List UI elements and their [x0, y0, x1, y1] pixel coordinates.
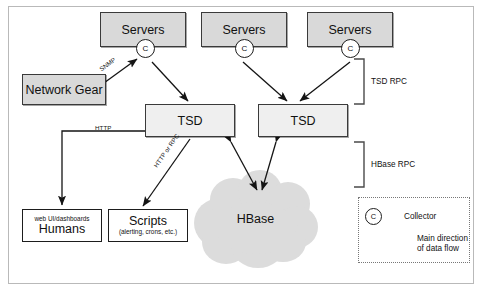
node-tsd-right[interactable]: TSD — [258, 104, 348, 137]
hbase-label: HBase — [188, 168, 323, 270]
legend-collector-glyph: C — [371, 212, 376, 221]
humans-label: Humans — [39, 223, 86, 236]
legend-row-flow: Main direction of data flow — [365, 234, 468, 253]
servers-3-label: Servers — [328, 23, 371, 37]
architecture-diagram: HBase — [0, 0, 485, 293]
bracket-label-tsd-rpc: TSD RPC — [371, 77, 407, 86]
collector-3-icon[interactable]: C — [341, 39, 360, 58]
legend-flow-label-line2: of data flow — [417, 244, 459, 254]
legend-flow-label-line1: Main direction — [417, 234, 468, 244]
tsd-right-label: TSD — [291, 114, 316, 128]
edge-label-http: HTTP — [95, 124, 112, 131]
legend-row-collector: C Collector — [365, 208, 436, 225]
legend-box: C Collector Main direction of data flow — [358, 197, 470, 263]
collector-2-icon[interactable]: C — [235, 39, 254, 58]
network-gear-label: Network Gear — [25, 83, 102, 97]
collector-1-glyph: C — [143, 44, 149, 53]
node-scripts[interactable]: Scripts (alerting, crons, etc.) — [108, 209, 188, 242]
collector-3-glyph: C — [348, 44, 354, 53]
node-tsd-left[interactable]: TSD — [145, 104, 235, 137]
node-network-gear[interactable]: Network Gear — [22, 74, 106, 105]
scripts-sub-label: (alerting, crons, etc.) — [119, 228, 177, 236]
hbase-cloud-shape: HBase — [188, 168, 323, 270]
scripts-label: Scripts — [129, 215, 167, 228]
collector-2-glyph: C — [242, 44, 248, 53]
servers-1-label: Servers — [121, 23, 164, 37]
legend-collector-label: Collector — [404, 212, 436, 222]
legend-collector-icon: C — [365, 208, 382, 225]
bracket-label-hbase-rpc: HBase RPC — [371, 160, 415, 169]
servers-2-label: Servers — [222, 23, 265, 37]
collector-1-icon[interactable]: C — [136, 39, 155, 58]
tsd-left-label: TSD — [178, 114, 203, 128]
node-humans[interactable]: web UI/dashboards Humans — [22, 209, 102, 242]
